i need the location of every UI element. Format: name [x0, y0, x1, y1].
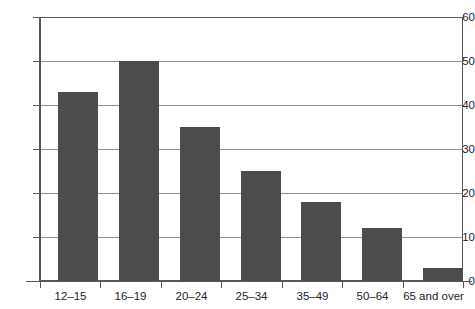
x-tick-mark-3 — [221, 282, 222, 288]
bar-16-19 — [119, 61, 159, 281]
y-tick-mark-10 — [33, 237, 40, 238]
bar-50-64 — [362, 228, 402, 281]
bar-35-49 — [301, 202, 341, 281]
x-tick-mark-start — [40, 282, 41, 288]
x-label-65-and-over: 65 and over — [396, 290, 471, 303]
bar-12-15 — [58, 92, 98, 281]
x-label-35-49: 35–49 — [282, 290, 343, 303]
y-tick-label-20: 20 — [449, 188, 475, 199]
x-axis-line — [26, 281, 472, 282]
x-label-16-19: 16–19 — [100, 290, 161, 303]
y-tick-label-40: 40 — [449, 100, 475, 111]
x-tick-mark-6 — [403, 282, 404, 288]
y-tick-mark-40 — [33, 105, 40, 106]
x-tick-mark-5 — [342, 282, 343, 288]
y-tick-label-50: 50 — [449, 56, 475, 67]
x-label-12-15: 12–15 — [40, 290, 101, 303]
x-label-20-24: 20–24 — [161, 290, 222, 303]
y-tick-label-60: 60 — [449, 12, 475, 23]
x-tick-mark-end — [463, 282, 464, 288]
y-tick-label-30: 30 — [449, 144, 475, 155]
bar-25-34 — [241, 171, 281, 281]
y-tick-mark-30 — [33, 149, 40, 150]
bars-layer — [40, 17, 463, 281]
y-tick-mark-50 — [33, 61, 40, 62]
x-tick-mark-2 — [161, 282, 162, 288]
y-tick-label-10: 10 — [449, 232, 475, 243]
y-tick-mark-60 — [33, 17, 40, 18]
x-label-25-34: 25–34 — [221, 290, 282, 303]
x-label-50-64: 50–64 — [342, 290, 403, 303]
bar-chart: 60 50 40 30 20 10 0 12–15 16–19 20–24 25… — [0, 0, 475, 309]
y-tick-mark-20 — [33, 193, 40, 194]
bar-20-24 — [180, 127, 220, 281]
x-tick-mark-4 — [282, 282, 283, 288]
x-tick-mark-1 — [100, 282, 101, 288]
